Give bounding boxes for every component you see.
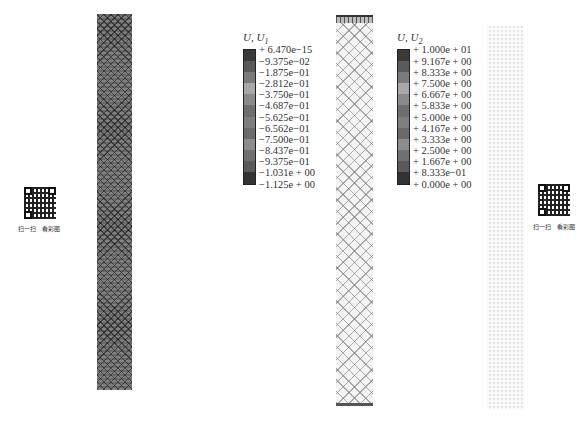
legend-u2-swatch	[397, 184, 410, 195]
legend-u1-entry: −1.125e + 00	[243, 184, 315, 195]
legend-u2-entry: + 0.000e + 00	[397, 184, 472, 195]
legend-u2-label: + 3.333e + 00	[413, 134, 472, 145]
mesh-column-u2	[336, 23, 373, 403]
legend-u2-swatch	[397, 94, 410, 105]
legend-u2-label: + 4.167e + 00	[413, 123, 472, 134]
legend-u1-label: −8.437e−01	[259, 145, 310, 156]
legend-u2-swatch	[397, 172, 410, 183]
legend-u1-swatch	[243, 105, 256, 116]
qr-code-left[interactable]	[24, 187, 56, 219]
legend-u1-swatch	[243, 61, 256, 72]
legend-u2-swatch	[397, 150, 410, 161]
mesh-top-constraint	[336, 15, 373, 23]
legend-u2-label: + 1.000e + 01	[413, 44, 472, 55]
legend-u2-label: + 9.167e + 00	[413, 56, 472, 67]
legend-u2-swatch	[397, 117, 410, 128]
legend-u1-swatch	[243, 184, 256, 195]
legend-u1-label: −1.875e−01	[259, 67, 310, 78]
legend-u2-label: + 6.667e + 00	[413, 89, 472, 100]
mesh-column-u1	[97, 14, 132, 390]
legend-u1-swatch	[243, 128, 256, 139]
legend-u2-label: + 8.333e + 00	[413, 67, 472, 78]
legend-u2-swatch	[397, 105, 410, 116]
legend-u1-label: −9.375e−01	[259, 156, 310, 167]
legend-u1-swatch	[243, 161, 256, 172]
legend-u1-swatch	[243, 139, 256, 150]
legend-u2-label: + 8.333e−01	[413, 167, 466, 178]
legend-u1-rows: + 6.470e−15−9.375e−02−1.875e−01−2.812e−0…	[243, 49, 315, 194]
legend-u2-swatch	[397, 49, 410, 60]
legend-u2-swatch	[397, 72, 410, 83]
legend-u1-swatch	[243, 172, 256, 183]
legend-u2-label: + 0.000e + 00	[413, 179, 472, 190]
legend-u1-label: −9.375e−02	[259, 56, 310, 67]
legend-u2-label: + 7.500e + 00	[413, 78, 472, 89]
legend-u1-swatch	[243, 150, 256, 161]
legend-u2: U, U2 + 1.000e + 01+ 9.167e + 00+ 8.333e…	[397, 32, 472, 195]
legend-u1-label: −1.125e + 00	[259, 179, 315, 190]
qr-caption-right: 扫一扫 看彩图	[533, 222, 575, 231]
legend-u2-swatch	[397, 83, 410, 94]
legend-u2-label: + 5.833e + 00	[413, 100, 472, 111]
legend-u2-label: + 5.000e + 00	[413, 112, 472, 123]
legend-u1-swatch	[243, 49, 256, 60]
mesh-column-right	[487, 26, 523, 410]
legend-u1-label: −2.812e−01	[259, 78, 310, 89]
legend-u1-label: + 6.470e−15	[259, 44, 312, 55]
legend-u2-label: + 1.667e + 00	[413, 156, 472, 167]
qr-code-right[interactable]	[538, 184, 570, 216]
legend-u1-label: −4.687e−01	[259, 100, 310, 111]
qr-caption-left: 扫一扫 看彩图	[18, 224, 60, 233]
legend-u1-swatch	[243, 94, 256, 105]
legend-u1-label: −1.031e + 00	[259, 167, 315, 178]
legend-u2-swatch	[397, 61, 410, 72]
legend-u2-rows: + 1.000e + 01+ 9.167e + 00+ 8.333e + 00+…	[397, 49, 472, 194]
legend-u1-label: −5.625e−01	[259, 112, 310, 123]
legend-u1: U, U1 + 6.470e−15−9.375e−02−1.875e−01−2.…	[243, 32, 315, 195]
legend-u1-swatch	[243, 83, 256, 94]
mesh-bottom-constraint	[336, 403, 373, 406]
legend-u2-swatch	[397, 139, 410, 150]
legend-u1-label: −6.562e−01	[259, 123, 310, 134]
legend-u1-label: −3.750e−01	[259, 89, 310, 100]
legend-u2-label: + 2.500e + 00	[413, 145, 472, 156]
legend-u1-swatch	[243, 72, 256, 83]
legend-u2-swatch	[397, 161, 410, 172]
legend-u2-swatch	[397, 128, 410, 139]
legend-u1-label: −7.500e−01	[259, 134, 310, 145]
legend-u1-swatch	[243, 117, 256, 128]
